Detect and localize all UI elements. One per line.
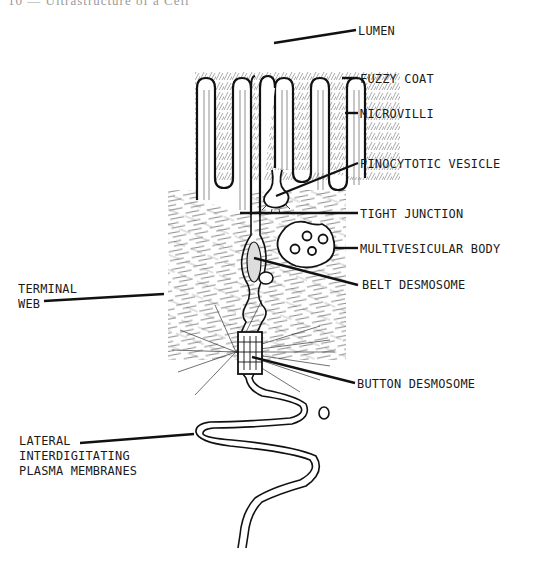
vesicle: [259, 272, 273, 284]
label-button-desmosome: BUTTON DESMOSOME: [357, 376, 475, 391]
label-lateral-membranes: LATERAL INTERDIGITATING PLASMA MEMBRANES: [19, 433, 137, 478]
label-terminal-web: TERMINAL WEB: [18, 281, 77, 311]
multivesicular-body: [278, 222, 335, 268]
label-fuzzy-coat: FUZZY COAT: [360, 71, 434, 86]
label-tight-junction: TIGHT JUNCTION: [360, 206, 463, 221]
button-desmosome: [238, 332, 262, 374]
vesicle: [319, 407, 329, 419]
label-pinocytotic-vesicle: PINOCYTOTIC VESICLE: [360, 156, 500, 171]
label-belt-desmosome: BELT DESMOSOME: [362, 277, 465, 292]
label-multivesicular-body: MULTIVESICULAR BODY: [360, 241, 500, 256]
label-lumen: LUMEN: [358, 23, 395, 38]
label-microvilli: MICROVILLI: [360, 106, 434, 121]
